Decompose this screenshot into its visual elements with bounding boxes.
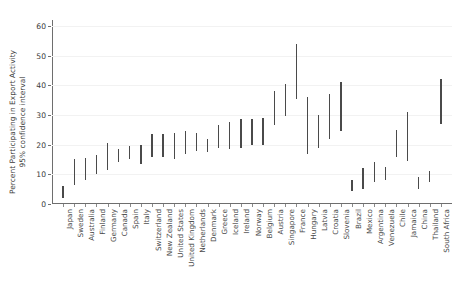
x-tick-label: Norway xyxy=(255,209,262,236)
x-tick-label: Finland xyxy=(99,209,106,235)
error-bar xyxy=(396,130,397,157)
x-tick-label: Greece xyxy=(221,209,228,235)
x-tick-label: Germany xyxy=(110,209,117,242)
x-tick-label: France xyxy=(299,209,306,233)
error-bar xyxy=(74,159,75,184)
x-tick-label: Spain xyxy=(132,209,139,229)
error-bar xyxy=(440,79,441,124)
x-tick-label: Canada xyxy=(121,209,128,236)
x-tick-label: Latvia xyxy=(321,209,328,231)
x-tick-label: Slovenia xyxy=(343,209,350,240)
x-tick-label: Argentina xyxy=(377,209,384,244)
error-bar xyxy=(151,134,152,156)
gridline xyxy=(52,56,452,57)
error-bar xyxy=(207,139,208,152)
gridline xyxy=(52,85,452,86)
y-tick-mark xyxy=(48,115,51,116)
x-tick-label: Singapore xyxy=(288,209,295,245)
gridline xyxy=(52,145,452,146)
x-tick-label: China xyxy=(421,209,428,230)
x-tick-label: Hungary xyxy=(310,209,317,240)
gridline xyxy=(52,174,452,175)
x-tick-label: Sweden xyxy=(77,209,84,237)
error-bar xyxy=(62,186,63,198)
x-tick-mark xyxy=(430,204,431,207)
x-tick-mark xyxy=(219,204,220,207)
x-tick-mark xyxy=(385,204,386,207)
x-tick-mark xyxy=(74,204,75,207)
x-tick-mark xyxy=(274,204,275,207)
y-tick-label: 0 xyxy=(41,200,46,209)
error-bar xyxy=(374,162,375,181)
x-tick-mark xyxy=(285,204,286,207)
x-tick-mark xyxy=(408,204,409,207)
error-bar xyxy=(174,133,175,160)
error-bar xyxy=(340,82,341,131)
error-bar xyxy=(329,94,330,139)
x-tick-label: New Zealand xyxy=(166,209,173,256)
y-tick-label: 50 xyxy=(36,51,46,60)
x-tick-mark xyxy=(363,204,364,207)
x-tick-mark xyxy=(63,204,64,207)
x-tick-mark xyxy=(396,204,397,207)
x-tick-label: Belgium xyxy=(266,209,273,238)
error-bar xyxy=(196,133,197,151)
error-bar xyxy=(318,115,319,148)
x-tick-mark xyxy=(308,204,309,207)
error-bar xyxy=(162,134,163,156)
error-bar xyxy=(307,97,308,153)
x-tick-mark xyxy=(263,204,264,207)
x-tick-label: Netherlands xyxy=(199,209,206,253)
x-tick-label: Brazil xyxy=(355,209,362,229)
x-tick-mark xyxy=(252,204,253,207)
x-tick-label: Iceland xyxy=(232,209,239,235)
x-tick-label: Chile xyxy=(399,209,406,227)
x-tick-mark xyxy=(330,204,331,207)
x-tick-label: Croatia xyxy=(332,209,339,235)
x-tick-mark xyxy=(374,204,375,207)
error-bar xyxy=(285,84,286,117)
error-bar xyxy=(96,155,97,174)
x-tick-label: Austria xyxy=(277,209,284,234)
error-bar xyxy=(218,125,219,147)
x-tick-mark xyxy=(419,204,420,207)
error-bar xyxy=(429,171,430,181)
x-tick-mark xyxy=(119,204,120,207)
x-tick-label: Ireland xyxy=(243,209,250,234)
y-tick-label: 30 xyxy=(36,110,46,119)
x-tick-mark xyxy=(96,204,97,207)
x-tick-label: Thailand xyxy=(432,209,439,240)
error-bar xyxy=(296,44,297,99)
error-bar xyxy=(351,180,352,190)
error-bar xyxy=(85,158,86,180)
x-tick-label: South Africa xyxy=(443,209,450,253)
x-tick-mark xyxy=(241,204,242,207)
error-bar xyxy=(407,112,408,161)
x-tick-mark xyxy=(85,204,86,207)
error-bar xyxy=(118,149,119,162)
x-tick-label: Denmark xyxy=(210,209,217,242)
x-tick-mark xyxy=(352,204,353,207)
y-axis-title-line2: 95% confidence interval xyxy=(18,77,28,168)
error-bar xyxy=(362,168,363,189)
x-tick-mark xyxy=(152,204,153,207)
x-tick-mark xyxy=(319,204,320,207)
x-tick-label: Jamaica xyxy=(410,209,417,237)
x-tick-mark xyxy=(185,204,186,207)
y-tick-mark xyxy=(48,56,51,57)
error-bar xyxy=(240,119,241,147)
x-tick-mark xyxy=(108,204,109,207)
x-tick-label: United Kingdom xyxy=(188,209,195,267)
x-tick-label: Mexico xyxy=(366,209,373,234)
y-tick-mark xyxy=(48,85,51,86)
y-tick-mark xyxy=(48,26,51,27)
error-bar xyxy=(274,91,275,125)
gridline xyxy=(52,115,452,116)
y-tick-mark xyxy=(48,145,51,146)
y-tick-label: 40 xyxy=(36,81,46,90)
x-tick-mark xyxy=(296,204,297,207)
error-bar xyxy=(140,145,141,164)
chart-figure: Percent Participating in Export Activity… xyxy=(0,0,456,292)
y-axis-title-line1: Percent Participating in Export Activity xyxy=(8,50,18,194)
x-tick-mark xyxy=(196,204,197,207)
